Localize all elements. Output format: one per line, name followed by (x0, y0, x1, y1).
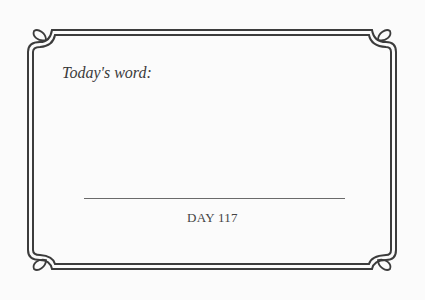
day-label: DAY 117 (0, 210, 425, 226)
answer-line (84, 198, 345, 199)
word-card: Today's word: DAY 117 (0, 0, 425, 300)
todays-word-label: Today's word: (62, 64, 152, 82)
decorative-frame (0, 0, 425, 300)
